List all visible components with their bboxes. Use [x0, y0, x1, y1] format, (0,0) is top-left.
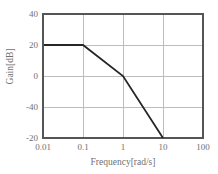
- xtick-label-3: 10: [143, 143, 183, 152]
- y-axis-title: Gain[dB]: [5, 32, 16, 102]
- bode-magnitude-chart: 40 20 0 -40 -20 0.01 0.1 1 10 100 Freque…: [0, 0, 218, 174]
- xtick-label-1: 0.1: [63, 143, 103, 152]
- xtick-label-0: 0.01: [23, 143, 63, 152]
- ytick-label-0: 40: [8, 10, 38, 19]
- xtick-label-2: 1: [103, 143, 143, 152]
- x-axis-title: Frequency[rad/s]: [43, 157, 203, 168]
- ytick-label-4: -20: [8, 134, 38, 143]
- ytick-label-3: -40: [8, 103, 38, 112]
- xtick-label-4: 100: [183, 143, 218, 152]
